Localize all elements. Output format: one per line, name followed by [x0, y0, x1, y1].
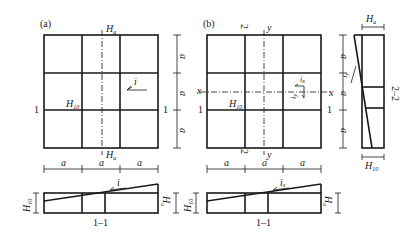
- panel-b-top-marker-2: 2: [239, 24, 250, 29]
- section-2-2-top-dim: Ha: [365, 13, 376, 25]
- panel-b-dim-bottom-2: a: [262, 157, 267, 168]
- panel-a-dim-bottom-2: a: [99, 157, 104, 168]
- section-1-1-b-left-dim: H10: [182, 199, 194, 213]
- diagram-canvas: (a) Ha Ha H10 i 1 1 a a a a a a: [0, 0, 418, 240]
- section-1-1-a: i H10 Ha 1–1: [21, 177, 179, 228]
- panel-b-dim-right-2: a: [339, 91, 350, 96]
- panel-a: (a) Ha Ha H10 i 1 1 a a a a a a: [34, 18, 189, 173]
- section-1-1-a-left-dim: H10: [21, 199, 33, 213]
- panel-b-axis-x-left: x: [196, 85, 202, 96]
- panel-a-dim-bottom-3: a: [137, 157, 142, 168]
- panel-a-grid-border: [44, 35, 158, 148]
- panel-a-section-marker-right: 1: [163, 104, 168, 115]
- panel-a-center-label: H10: [65, 98, 79, 110]
- section-1-1-a-slope-label: i: [117, 177, 120, 188]
- panel-b-label: (b): [203, 18, 215, 30]
- panel-a-dim-bottom-1: a: [61, 157, 66, 168]
- section-2-2-arrow: [351, 66, 356, 83]
- section-2-2-bottom-dim: H10: [364, 160, 378, 172]
- panel-b-axis-x-right: x: [328, 87, 334, 98]
- panel-a-dim-right-1: a: [178, 54, 189, 59]
- section-2-2-slope-line: [354, 35, 372, 148]
- panel-b-center-label: H10: [228, 98, 242, 110]
- section-1-1-b-slope-label: ix: [280, 177, 286, 188]
- panel-b-top-axis-y: y: [266, 22, 272, 33]
- panel-b-slope-y: iy: [289, 94, 298, 99]
- section-1-1-b: ix H10 Ha 1–1: [182, 177, 341, 228]
- panel-a-bottom-label: Ha: [105, 149, 116, 161]
- panel-a-slope-label: i: [134, 76, 137, 87]
- section-1-1-a-title: 1–1: [93, 217, 108, 228]
- panel-a-label: (a): [40, 18, 51, 30]
- panel-a-slope-arrowhead-icon: [127, 86, 132, 90]
- panel-b-section-marker-left: 1: [198, 104, 203, 115]
- panel-a-top-label: Ha: [105, 23, 116, 35]
- panel-b-dim-bottom-3: a: [300, 157, 305, 168]
- section-2-2-title: 2–2: [390, 86, 401, 101]
- section-1-1-b-title: 1–1: [256, 217, 271, 228]
- panel-a-dim-right-3: a: [178, 128, 189, 133]
- panel-b-dim-right-1: a: [339, 54, 350, 59]
- section-1-1-a-right-dim: Ha: [160, 195, 172, 206]
- panel-a-dim-right-2: a: [178, 91, 189, 96]
- panel-b-bottom-marker-2: 2: [239, 149, 250, 154]
- panel-b-slope-x: ix: [300, 75, 305, 84]
- panel-b: (b) y y 2 2 x x H10 ix iy 1 1 a a a a a …: [196, 18, 350, 173]
- panel-b-dim-bottom-1: a: [224, 157, 229, 168]
- panel-b-dim-right-3: a: [339, 128, 350, 133]
- panel-b-section-marker-right: 1: [327, 104, 332, 115]
- panel-a-section-marker-left: 1: [34, 104, 39, 115]
- section-1-1-b-right-dim: Ha: [322, 195, 334, 206]
